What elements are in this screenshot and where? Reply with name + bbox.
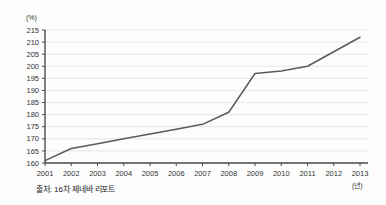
x-tick-label: 2010 — [273, 169, 290, 178]
chart-figure: (%) 160165170175180185190195200205210215… — [0, 0, 386, 205]
y-tick-label: 190 — [26, 86, 39, 95]
y-tick-label: 185 — [26, 98, 39, 107]
y-tick-label: 195 — [26, 74, 39, 83]
x-tick-label: 2013 — [352, 169, 369, 178]
y-tick-label: 210 — [26, 38, 39, 47]
x-tick-label: 2012 — [325, 169, 342, 178]
source-note: 출처: 16차 제네바 리포트 — [36, 183, 115, 194]
y-tick-label: 170 — [26, 134, 39, 143]
grid-lines — [45, 30, 368, 151]
y-tick-label: 160 — [26, 159, 39, 168]
y-tick-label: 175 — [26, 122, 39, 131]
y-tick-label: 180 — [26, 110, 39, 119]
x-tick-label: 2004 — [115, 169, 132, 178]
x-tick-label: 2001 — [37, 169, 54, 178]
data-series-line — [45, 37, 360, 160]
y-tick-label: 165 — [26, 147, 39, 156]
x-tick-label: 2009 — [247, 169, 264, 178]
x-tick-label: 2006 — [168, 169, 185, 178]
y-tick-label: 205 — [26, 50, 39, 59]
x-tick-label: 2007 — [194, 169, 211, 178]
y-tick-label: 200 — [26, 62, 39, 71]
x-axis-tick-labels: 2001200220032004200520062007200820092010… — [37, 169, 369, 178]
y-axis-tick-labels: 160165170175180185190195200205210215 — [26, 26, 39, 168]
line-chart-canvas: 160165170175180185190195200205210215 200… — [0, 0, 386, 205]
x-tick-label: 2011 — [299, 169, 315, 178]
x-tick-label: 2002 — [63, 169, 80, 178]
x-axis-unit-label: (년) — [352, 180, 363, 190]
x-tick-label: 2008 — [220, 169, 237, 178]
y-tick-label: 215 — [26, 26, 39, 35]
x-tick-label: 2005 — [142, 169, 159, 178]
x-tick-label: 2003 — [89, 169, 106, 178]
